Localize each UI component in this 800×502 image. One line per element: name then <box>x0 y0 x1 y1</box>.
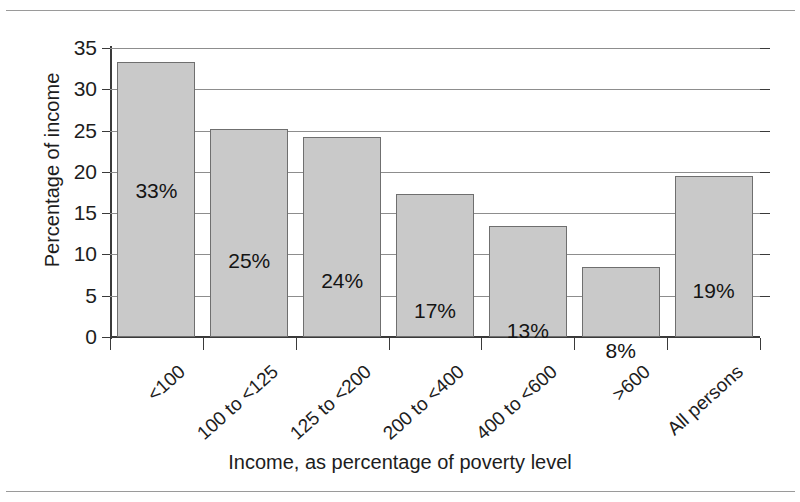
gridline <box>110 48 760 49</box>
right-axis-tick <box>760 131 770 132</box>
bar-value-label: 8% <box>582 340 660 361</box>
y-axis-tick-label: 10 <box>57 243 97 264</box>
gridline <box>110 172 760 173</box>
y-axis-tick-label: 20 <box>57 161 97 182</box>
bar-value-label: 25% <box>210 250 288 271</box>
x-axis-tick <box>389 338 390 350</box>
right-axis-tick <box>760 213 770 214</box>
y-axis-tick-label: 35 <box>57 37 97 58</box>
y-axis-tick-label: 0 <box>57 326 97 347</box>
gridline <box>110 131 760 132</box>
right-axis-tick <box>760 89 770 90</box>
x-axis-tick <box>667 338 668 350</box>
x-axis-tick <box>481 338 482 350</box>
y-axis-tick-label: 15 <box>57 202 97 223</box>
y-axis-tick-label: 25 <box>57 120 97 141</box>
bar <box>675 176 753 337</box>
gridline <box>110 89 760 90</box>
bar-value-label: 24% <box>303 270 381 291</box>
plot-area: 33%25%24%17%13%8%19% <box>110 48 760 337</box>
y-axis-title: Percentage of income <box>42 30 62 310</box>
page-rule-top <box>6 10 795 11</box>
bar-value-label: 13% <box>489 320 567 341</box>
bar-value-label: 33% <box>117 180 195 201</box>
x-axis-tick <box>203 338 204 350</box>
bar-value-label: 17% <box>396 300 474 321</box>
x-axis-tick <box>574 338 575 350</box>
bar-value-label: 19% <box>675 280 753 301</box>
x-axis-tick <box>110 338 111 350</box>
y-axis-tick-label: 30 <box>57 78 97 99</box>
bar <box>582 267 660 337</box>
y-axis-tick-label: 5 <box>57 285 97 306</box>
right-axis-tick <box>760 296 770 297</box>
bar <box>303 137 381 337</box>
x-axis-title: Income, as percentage of poverty level <box>0 452 800 472</box>
right-axis-tick <box>760 48 770 49</box>
x-axis-tick <box>760 338 761 350</box>
bar <box>210 129 288 337</box>
chart-figure: 05101520253035 33%25%24%17%13%8%19% <100… <box>0 0 800 502</box>
x-axis-tick <box>296 338 297 350</box>
right-axis-tick <box>760 254 770 255</box>
right-axis-tick <box>760 172 770 173</box>
